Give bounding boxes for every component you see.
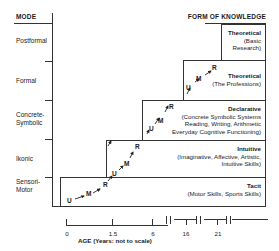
age-label-21: 21: [215, 230, 222, 237]
stage-m-tacit: M: [86, 190, 91, 197]
age-axis-segment-2: [174, 219, 196, 220]
age-tick-1-5: [112, 219, 113, 226]
stage-r-tacit: R: [103, 181, 108, 188]
age-axis-segment-1: [66, 225, 168, 226]
age-axis-title: AGE (Years: not to scale): [78, 237, 152, 244]
stage-r-declarative: R: [169, 103, 174, 110]
axis-break-mark: [200, 216, 201, 224]
stage-m-professions: M: [196, 75, 201, 82]
axis-break-mark: [170, 216, 171, 224]
stage-r-professions: R: [212, 64, 217, 71]
age-label-16: 16: [183, 230, 190, 237]
age-axis-segment-4: [232, 219, 268, 220]
axis-break-mark: [230, 216, 231, 224]
age-tick-21: [217, 219, 218, 225]
stage-r-intuitive: R: [135, 143, 140, 150]
age-axis-segment-3: [204, 219, 226, 220]
stage-u-declarative: U: [149, 125, 154, 132]
stage-m-intuitive: M: [124, 160, 129, 167]
axis-break-mark: [166, 216, 167, 224]
stage-m-declarative: M: [158, 117, 163, 124]
progression-arrows: [0, 0, 279, 251]
stage-u-intuitive: U: [112, 170, 117, 177]
stage-u-professions: U: [186, 84, 191, 91]
stage-u-tacit: U: [67, 197, 72, 204]
age-label-6: 6: [151, 230, 154, 237]
age-label-1-5: 1.5: [109, 230, 118, 237]
axis-break-mark: [196, 216, 197, 224]
age-label-0: 0: [65, 230, 68, 237]
age-tick-0: [66, 219, 67, 226]
axis-break-mark: [226, 216, 227, 224]
age-tick-6: [152, 219, 153, 225]
age-tick-16-b: [186, 219, 187, 225]
